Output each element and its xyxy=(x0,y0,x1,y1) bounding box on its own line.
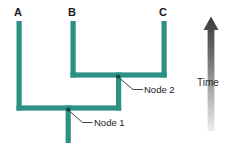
figure-canvas: A B C Node 1 Node 2 Time xyxy=(0,0,236,143)
taxon-label-a: A xyxy=(14,7,22,18)
leader-lines xyxy=(69,78,143,123)
tree-branches xyxy=(17,21,167,143)
leader-line-node2 xyxy=(119,78,143,90)
branch-tip-a xyxy=(17,21,22,111)
time-axis-label: Time xyxy=(197,78,219,88)
time-arrow-shape xyxy=(204,17,219,132)
branch-tip-b xyxy=(71,21,76,78)
taxon-label-c: C xyxy=(159,7,167,18)
node-label-node2: Node 2 xyxy=(144,85,175,95)
leader-line-node1 xyxy=(69,111,93,123)
branch-tip-c xyxy=(162,21,167,78)
node-label-node1: Node 1 xyxy=(94,118,125,128)
time-axis-arrow xyxy=(204,17,219,132)
taxon-label-b: B xyxy=(68,7,76,18)
